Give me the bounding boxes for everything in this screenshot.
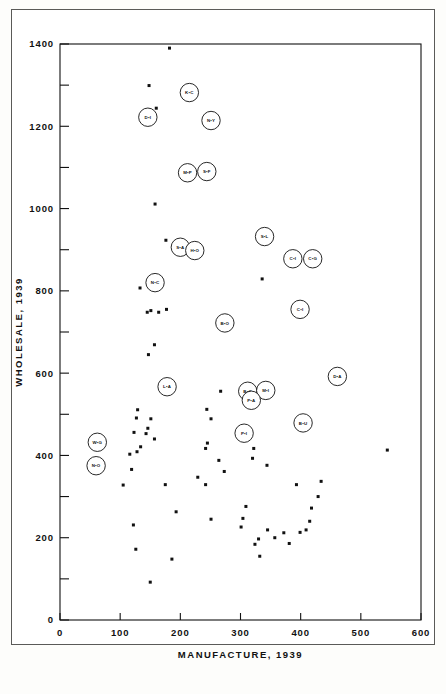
- city-label-text: N•Y: [207, 118, 215, 123]
- labeled-data-point: H•O: [186, 241, 204, 259]
- data-point: [310, 507, 313, 510]
- y-tick-label: 1400: [29, 38, 54, 49]
- city-label-text: M•P: [183, 170, 192, 175]
- data-point: [136, 450, 139, 453]
- data-point: [130, 468, 133, 471]
- labeled-data-point: C•I: [284, 250, 302, 268]
- city-label-text: M•I: [262, 388, 269, 393]
- data-point: [261, 277, 264, 280]
- data-points-group: [122, 47, 389, 584]
- data-point: [164, 483, 167, 486]
- data-point: [132, 523, 135, 526]
- data-point: [206, 442, 209, 445]
- labeled-data-point: S•F: [198, 162, 216, 180]
- city-label-text: H•O: [190, 248, 199, 253]
- data-point: [149, 309, 152, 312]
- data-point: [164, 239, 167, 242]
- x-tick-label: 200: [171, 627, 190, 638]
- data-point: [219, 390, 222, 393]
- data-point: [258, 555, 261, 558]
- y-tick-label: 600: [35, 368, 54, 379]
- y-axis-title: WHOLESALE, 1939: [13, 277, 24, 387]
- data-point: [157, 311, 160, 314]
- data-point: [147, 353, 150, 356]
- labeled-data-point: S•L: [255, 227, 273, 245]
- axis-titles-group: MANUFACTURE, 1939WHOLESALE, 1939: [13, 277, 303, 660]
- city-label-text: N•C: [151, 280, 160, 285]
- scatter-plot: 0100200300400500600020040060080010001200…: [0, 0, 446, 694]
- labeled-data-point: P•A: [242, 391, 260, 409]
- axes-group: 0100200300400500600020040060080010001200…: [29, 38, 430, 638]
- data-point: [299, 531, 302, 534]
- data-point: [149, 417, 152, 420]
- city-label-text: C•I: [290, 256, 297, 261]
- labeled-data-point: N•O: [87, 457, 105, 475]
- data-point: [244, 505, 247, 508]
- city-label-text: P•A: [247, 398, 256, 403]
- data-point: [139, 445, 142, 448]
- x-tick-label: 300: [231, 627, 250, 638]
- data-point: [153, 343, 156, 346]
- city-label-text: W•G: [92, 440, 102, 445]
- labeled-data-point: K•C: [180, 83, 198, 101]
- data-point: [133, 431, 136, 434]
- data-point: [241, 517, 244, 520]
- data-point: [305, 528, 308, 531]
- data-point: [149, 581, 152, 584]
- data-point: [196, 476, 199, 479]
- labeled-data-point: P•I: [235, 424, 253, 442]
- labeled-data-point: B•U: [294, 414, 312, 432]
- data-point: [153, 437, 156, 440]
- labeled-data-point: M•P: [178, 164, 196, 182]
- data-point: [135, 416, 138, 419]
- data-point: [128, 453, 131, 456]
- y-tick-label: 400: [35, 450, 54, 461]
- labeled-data-point: D•A: [328, 367, 346, 385]
- plot-frame: [60, 44, 421, 620]
- y-tick-label: 0: [48, 614, 54, 625]
- y-tick-label: 200: [35, 532, 54, 543]
- city-label-text: B•O: [220, 321, 229, 326]
- data-point: [204, 483, 207, 486]
- labeled-data-point: L•A: [158, 378, 176, 396]
- data-point: [134, 548, 137, 551]
- data-point: [210, 518, 213, 521]
- labeled-data-point: N•C: [146, 273, 164, 291]
- data-point: [136, 408, 139, 411]
- data-point: [253, 543, 256, 546]
- data-point: [273, 536, 276, 539]
- x-tick-label: 100: [111, 627, 130, 638]
- city-label-text: S•F: [203, 169, 211, 174]
- labeled-data-point: C•G: [304, 250, 322, 268]
- labeled-data-point: N•Y: [202, 111, 220, 129]
- data-point: [204, 447, 207, 450]
- city-label-text: D•I: [145, 115, 152, 120]
- city-label-text: C•I: [297, 307, 304, 312]
- data-point: [223, 470, 226, 473]
- data-point: [265, 464, 268, 467]
- x-tick-label: 600: [412, 627, 431, 638]
- x-tick-label: 400: [291, 627, 310, 638]
- data-point: [205, 408, 208, 411]
- data-point: [145, 432, 148, 435]
- city-label-text: P•I: [241, 431, 247, 436]
- x-tick-label: 500: [352, 627, 371, 638]
- data-point: [170, 558, 173, 561]
- page-canvas: 0100200300400500600020040060080010001200…: [0, 0, 446, 694]
- data-point: [217, 459, 220, 462]
- data-point: [168, 47, 171, 50]
- data-point: [175, 510, 178, 513]
- data-point: [295, 483, 298, 486]
- data-point: [210, 417, 213, 420]
- y-tick-label: 1000: [29, 203, 54, 214]
- labeled-data-point: D•I: [139, 108, 157, 126]
- labeled-points-group: K•CD•IN•YM•PS•FS•LS•AH•OC•IC•GN•CC•IB•OD…: [87, 83, 347, 475]
- data-point: [252, 447, 255, 450]
- y-tick-label: 800: [35, 285, 54, 296]
- data-point: [282, 531, 285, 534]
- data-point: [165, 308, 168, 311]
- figure-caption: [14, 652, 434, 692]
- city-label-text: N•O: [92, 463, 101, 468]
- data-point: [320, 480, 323, 483]
- data-point: [288, 542, 291, 545]
